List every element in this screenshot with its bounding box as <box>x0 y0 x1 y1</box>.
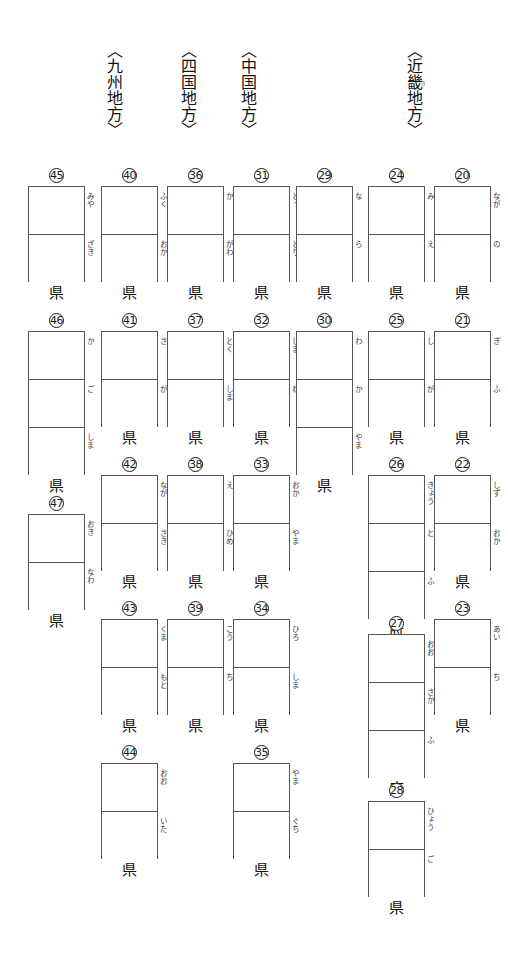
answer-cell[interactable] <box>101 379 158 427</box>
answer-grid: なら <box>296 186 353 282</box>
answer-cell[interactable] <box>101 763 158 811</box>
answer-cell[interactable] <box>368 801 425 849</box>
answer-cell[interactable] <box>28 234 85 282</box>
answer-cell[interactable] <box>434 379 491 427</box>
answer-grid: かがわ <box>167 186 224 282</box>
answer-cell[interactable] <box>233 186 290 234</box>
answer-cell[interactable] <box>28 562 85 610</box>
prefecture-item-23: 23あいち県 <box>434 601 491 734</box>
answer-cell[interactable] <box>101 186 158 234</box>
answer-cell[interactable] <box>167 234 224 282</box>
answer-cell[interactable] <box>296 379 353 427</box>
answer-cell[interactable] <box>28 514 85 562</box>
answer-cell[interactable] <box>368 379 425 427</box>
answer-cell[interactable] <box>28 186 85 234</box>
region-base-char: 地 <box>178 90 197 106</box>
answer-cell[interactable] <box>434 619 491 667</box>
prefecture-suffix-label: 県 <box>317 286 332 301</box>
answer-cell[interactable] <box>368 730 425 778</box>
answer-cell[interactable] <box>434 667 491 715</box>
furigana-hint: か <box>225 192 233 200</box>
region-base-char: 方 <box>238 106 257 122</box>
prefecture-item-33: 33おかやま県 <box>233 457 290 590</box>
answer-cell[interactable] <box>233 331 290 379</box>
answer-cell[interactable] <box>101 619 158 667</box>
prefecture-suffix-label: 県 <box>188 719 203 734</box>
answer-cell[interactable] <box>233 811 290 859</box>
answer-cell[interactable] <box>296 331 353 379</box>
answer-cell[interactable] <box>28 331 85 379</box>
furigana-hint: か <box>354 385 362 393</box>
answer-cell[interactable] <box>28 379 85 427</box>
answer-cell[interactable] <box>101 331 158 379</box>
region-base-char: 地 <box>404 90 423 106</box>
prefecture-item-20: 20ながの県 <box>434 168 491 301</box>
answer-grid: ひろしま <box>233 619 290 715</box>
prefecture-number-badge: 39 <box>188 601 203 616</box>
furigana-hint: おか <box>492 529 500 545</box>
answer-cell[interactable] <box>101 475 158 523</box>
answer-cell[interactable] <box>233 234 290 282</box>
prefecture-item-37: 37とくしま県 <box>167 313 224 446</box>
prefecture-suffix-label: 県 <box>254 286 269 301</box>
answer-cell[interactable] <box>233 523 290 571</box>
answer-cell[interactable] <box>296 234 353 282</box>
answer-cell[interactable] <box>368 682 425 730</box>
answer-cell[interactable] <box>296 186 353 234</box>
answer-cell[interactable] <box>101 667 158 715</box>
answer-cell[interactable] <box>434 186 491 234</box>
prefecture-suffix-label: 県 <box>254 575 269 590</box>
prefecture-item-32: 32しまね県 <box>233 313 290 446</box>
answer-cell[interactable] <box>167 186 224 234</box>
answer-cell[interactable] <box>101 234 158 282</box>
answer-cell[interactable] <box>434 331 491 379</box>
answer-cell[interactable] <box>233 379 290 427</box>
prefecture-number-badge: 37 <box>188 313 203 328</box>
answer-cell[interactable] <box>368 571 425 619</box>
prefecture-number-badge: 41 <box>122 313 137 328</box>
prefecture-number-badge: 25 <box>389 313 404 328</box>
answer-cell[interactable] <box>368 234 425 282</box>
prefecture-number-badge: 30 <box>317 313 332 328</box>
answer-cell[interactable] <box>167 331 224 379</box>
prefecture-suffix-label: 県 <box>49 286 64 301</box>
answer-cell[interactable] <box>368 634 425 682</box>
answer-cell[interactable] <box>167 667 224 715</box>
prefecture-number-badge: 22 <box>455 457 470 472</box>
prefecture-item-44: 44おおいた県 <box>101 745 158 878</box>
answer-cell[interactable] <box>233 475 290 523</box>
furigana-hint: おお <box>159 769 167 785</box>
answer-cell[interactable] <box>28 427 85 475</box>
answer-cell[interactable] <box>233 763 290 811</box>
answer-cell[interactable] <box>167 379 224 427</box>
answer-cell[interactable] <box>368 186 425 234</box>
answer-cell[interactable] <box>368 849 425 897</box>
answer-cell[interactable] <box>167 619 224 667</box>
answer-grid: しずおか <box>434 475 491 571</box>
answer-cell[interactable] <box>101 811 158 859</box>
prefecture-suffix-label: 県 <box>49 479 64 494</box>
prefecture-item-29: 29なら県 <box>296 168 353 301</box>
answer-cell[interactable] <box>167 523 224 571</box>
answer-cell[interactable] <box>368 475 425 523</box>
answer-cell[interactable] <box>167 475 224 523</box>
furigana-hint: おか <box>291 481 299 497</box>
region-ruby-text: き <box>421 81 426 85</box>
answer-cell[interactable] <box>296 427 353 475</box>
answer-cell[interactable] <box>233 667 290 715</box>
answer-cell[interactable] <box>368 523 425 571</box>
answer-cell[interactable] <box>368 331 425 379</box>
furigana-hint: ふ <box>492 385 500 393</box>
answer-cell[interactable] <box>434 475 491 523</box>
furigana-hint: とく <box>225 337 233 353</box>
answer-cell[interactable] <box>434 523 491 571</box>
furigana-hint: ら <box>354 240 362 248</box>
prefecture-item-21: 21ぎふ県 <box>434 313 491 446</box>
furigana-hint: さか <box>426 688 434 704</box>
answer-grid: こうち <box>167 619 224 715</box>
prefecture-number-badge: 31 <box>254 168 269 183</box>
furigana-hint: ひろ <box>291 625 299 641</box>
answer-cell[interactable] <box>101 523 158 571</box>
answer-cell[interactable] <box>233 619 290 667</box>
answer-cell[interactable] <box>434 234 491 282</box>
